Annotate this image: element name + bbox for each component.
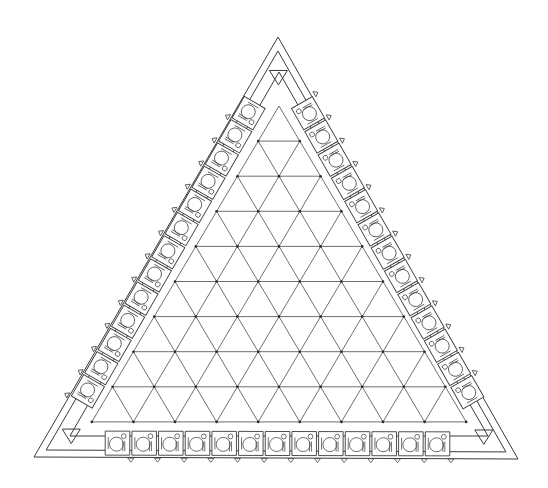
triangle-diagram: [0, 0, 548, 488]
grid-node: [215, 421, 218, 424]
tick-triangle-icon: [211, 136, 217, 143]
module-unit: [399, 432, 424, 456]
edge-tick: [157, 229, 163, 236]
edge-tick: [341, 459, 347, 463]
grid-node: [361, 245, 364, 248]
grid-node: [278, 245, 281, 248]
outer-triangle: [34, 37, 518, 459]
edge-tick: [394, 459, 400, 463]
edge-tick: [154, 458, 160, 462]
grid-node: [236, 175, 239, 178]
module-unit: [239, 431, 264, 455]
edge-tick: [393, 229, 399, 236]
grid-node: [382, 280, 385, 283]
edge-tick: [211, 136, 217, 143]
edge-tick: [379, 206, 385, 213]
corner-markers: [62, 70, 493, 444]
grid-node: [340, 350, 343, 353]
grid-node: [257, 140, 260, 143]
tick-triangle-icon: [288, 459, 294, 463]
tick-triangle-icon: [368, 459, 374, 463]
tick-triangle-icon: [184, 182, 190, 189]
tick-triangle-icon: [170, 205, 176, 212]
grid-node: [91, 421, 94, 424]
grid-node: [195, 315, 198, 318]
grid-node: [195, 245, 198, 248]
edge-tick: [288, 459, 294, 463]
corner-triangle-down-icon: [475, 430, 493, 444]
module-unit: [319, 432, 344, 456]
edge-tick: [197, 159, 203, 166]
grid-node: [382, 350, 385, 353]
tick-triangle-icon: [341, 459, 347, 463]
grid-line: [425, 387, 446, 422]
grid-node: [215, 350, 218, 353]
grid-node: [236, 315, 239, 318]
edge-tick: [368, 459, 374, 463]
grid-line: [341, 317, 403, 422]
edge-tick: [208, 458, 214, 462]
module-unit: [185, 431, 210, 455]
edge-tick: [448, 459, 454, 463]
grid-node: [423, 421, 426, 424]
module-unit: [132, 431, 157, 455]
grid-node: [174, 350, 177, 353]
grid-node: [340, 280, 343, 283]
module-unit: [345, 432, 370, 456]
module-unit: [212, 431, 237, 455]
grid-node: [215, 210, 218, 213]
module-unit: [265, 431, 290, 455]
tick-triangle-icon: [224, 113, 230, 120]
grid-node: [153, 315, 156, 318]
tick-triangle-icon: [128, 458, 134, 462]
tick-triangle-icon: [393, 229, 399, 236]
tick-triangle-icon: [181, 458, 187, 462]
edge-tick: [224, 113, 230, 120]
perimeter-modules: [63, 90, 484, 463]
edge-tick: [472, 369, 478, 376]
grid-line: [279, 106, 466, 422]
edge-tick: [184, 182, 190, 189]
grid-node: [319, 386, 322, 389]
edge-tick: [459, 345, 465, 352]
grid-node: [340, 421, 343, 424]
edge-tick: [340, 136, 346, 143]
edge-tick: [314, 459, 320, 463]
tick-triangle-icon: [197, 159, 203, 166]
grid-node: [174, 280, 177, 283]
grid-node: [361, 315, 364, 318]
grid-node: [278, 386, 281, 389]
grid-node: [319, 175, 322, 178]
grid-node: [215, 280, 218, 283]
tick-triangle-icon: [261, 458, 267, 462]
grid-node: [382, 421, 385, 424]
edge-tick: [313, 90, 319, 97]
tick-triangle-icon: [406, 252, 412, 259]
edge-tick: [326, 113, 332, 120]
grid-node: [278, 315, 281, 318]
edge-tick: [446, 322, 452, 329]
grid-line: [92, 106, 279, 422]
grid-node: [319, 315, 322, 318]
tick-triangle-icon: [157, 229, 163, 236]
grid-node: [132, 421, 135, 424]
grid-node: [257, 350, 260, 353]
module-unit: [292, 432, 317, 456]
tick-triangle-icon: [419, 276, 425, 283]
grid-node: [299, 350, 302, 353]
grid-node: [257, 280, 260, 283]
edge-tick: [432, 299, 438, 306]
tick-triangle-icon: [394, 459, 400, 463]
grid-node: [236, 386, 239, 389]
grid-node: [361, 386, 364, 389]
module-unit: [159, 431, 184, 455]
tick-triangle-icon: [432, 299, 438, 306]
tick-triangle-icon: [314, 459, 320, 463]
grid-node: [403, 315, 406, 318]
module-unit: [372, 432, 397, 456]
grid-line: [258, 246, 362, 422]
tick-triangle-icon: [448, 459, 454, 463]
grid-node: [444, 386, 447, 389]
tick-triangle-icon: [459, 345, 465, 352]
edge-tick: [261, 458, 267, 462]
